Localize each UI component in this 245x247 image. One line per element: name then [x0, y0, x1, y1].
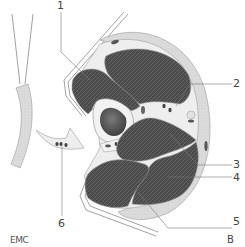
label-3: 3 [233, 159, 240, 170]
credit-emc: EMC [10, 236, 28, 245]
label-4: 4 [233, 172, 240, 183]
label-1: 1 [57, 0, 64, 11]
vessel-flap [36, 128, 84, 149]
label-6: 6 [58, 218, 65, 229]
label-5: 5 [233, 216, 240, 227]
cross-section-diagram [0, 0, 245, 247]
retractor-strings [12, 14, 33, 84]
skin-flap [11, 84, 32, 168]
panel-letter: B [227, 235, 234, 245]
label-2: 2 [233, 78, 240, 89]
lateral-vessel [204, 141, 207, 151]
